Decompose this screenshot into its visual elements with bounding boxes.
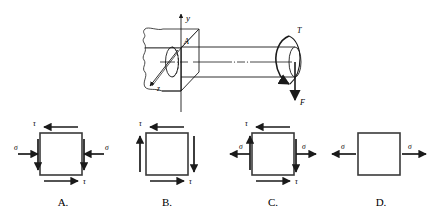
shaft-assembly-svg: z y — [0, 0, 442, 115]
figure-page: z y — [0, 0, 442, 220]
option-d-normal-left-label: σ — [341, 142, 345, 151]
y-axis-label: y — [185, 13, 190, 23]
option-a-normal-right-label: σ — [105, 143, 109, 152]
option-c-shear-top-label: τ — [245, 119, 248, 128]
option-a-normal-left-label: σ — [14, 143, 18, 152]
option-c-normal-right-label: σ — [302, 142, 306, 151]
z-axis-label: z — [156, 84, 160, 93]
option-b-element-square — [146, 133, 188, 175]
option-b-shear-top-label: τ — [139, 119, 142, 128]
option-b[interactable]: τ τ — [139, 119, 194, 186]
force-label: F — [299, 98, 305, 107]
torque-label: T — [297, 26, 302, 35]
option-d[interactable]: σ σ — [332, 133, 426, 175]
option-b-label[interactable]: B. — [152, 196, 182, 208]
option-c-element-square — [252, 133, 294, 175]
option-a[interactable]: τ τ σ σ — [14, 119, 109, 186]
centerline-dot — [247, 61, 248, 62]
option-d-normal-right-label: σ — [408, 142, 412, 151]
centerline-dot — [177, 61, 178, 62]
option-c[interactable]: τ τ σ σ — [230, 119, 316, 186]
centerline-dot — [234, 61, 235, 62]
option-d-element-square — [358, 133, 400, 175]
shaft-assembly-figure: z y — [0, 0, 442, 115]
option-d-label[interactable]: D. — [366, 196, 396, 208]
option-a-shear-bottom-label: τ — [83, 177, 86, 186]
option-a-label[interactable]: A. — [48, 196, 78, 208]
option-c-normal-left-label: σ — [239, 142, 243, 151]
option-c-label[interactable]: C. — [258, 196, 288, 208]
option-b-shear-bottom-label: τ — [189, 177, 192, 186]
wall-front-face — [143, 48, 181, 91]
point-a-marker: A — [183, 37, 189, 46]
point-a-label: A — [183, 37, 189, 46]
option-a-shear-top-label: τ — [33, 119, 36, 128]
option-a-element-square — [40, 133, 82, 175]
option-c-shear-bottom-label: τ — [295, 177, 298, 186]
